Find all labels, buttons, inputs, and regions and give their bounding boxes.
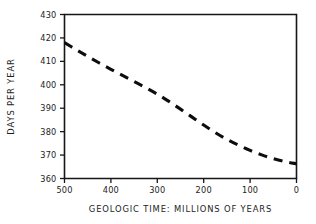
y-tick-label: 390 bbox=[40, 103, 56, 113]
x-axis-title: GEOLOGIC TIME: MILLIONS OF YEARS bbox=[89, 204, 272, 214]
y-axis-title: DAYS PER YEAR bbox=[6, 58, 16, 134]
y-tick-label: 410 bbox=[40, 56, 56, 66]
x-tick-label: 200 bbox=[196, 185, 212, 195]
y-tick-label: 360 bbox=[40, 174, 56, 184]
y-tick-label: 400 bbox=[40, 80, 56, 90]
x-tick-label: 300 bbox=[149, 185, 165, 195]
days-per-year-line-chart: 360370380390400410420430 500400300200100… bbox=[0, 0, 316, 224]
y-tick-label: 420 bbox=[40, 33, 56, 43]
y-tick-label: 380 bbox=[40, 127, 56, 137]
chart-container: 360370380390400410420430 500400300200100… bbox=[0, 0, 316, 224]
y-tick-label: 430 bbox=[40, 10, 56, 20]
y-tick-label: 370 bbox=[40, 150, 56, 160]
x-tick-label: 100 bbox=[242, 185, 258, 195]
x-tick-label: 400 bbox=[103, 185, 119, 195]
x-tick-label: 0 bbox=[294, 185, 299, 195]
x-tick-label: 500 bbox=[56, 185, 72, 195]
